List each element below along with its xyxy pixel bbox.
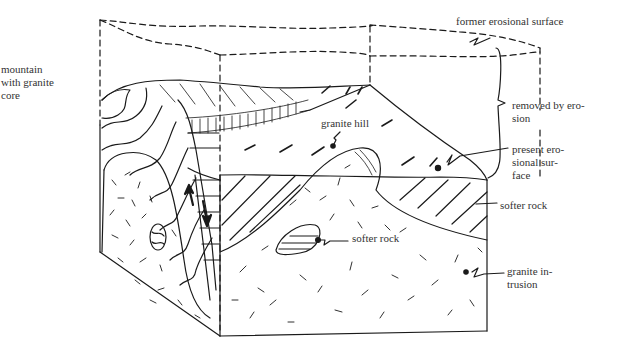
ridge-hatching (160, 84, 310, 133)
softer-rock-pod (276, 225, 320, 255)
leader-lines (316, 38, 508, 277)
label-mountain-granite-core: mountain with granite core (1, 63, 54, 102)
folded-strata (102, 88, 216, 290)
fault-arrow-up-icon (185, 185, 193, 205)
granite-core (102, 153, 210, 318)
label-granite-intrusion: granite in- trusion (507, 265, 553, 291)
label-former-erosional-surface: former erosional surface (456, 15, 564, 28)
label-granite-hill: granite hill (321, 117, 369, 130)
block-outline (100, 125, 487, 336)
label-softer-rock-right: softer rock (500, 199, 547, 212)
label-removed-by-erosion: removed by ero- sion (512, 99, 585, 125)
label-softer-rock-middle: softer rock (352, 232, 399, 245)
label-present-erosional-surface: present ero- sional sur- face (512, 143, 564, 182)
